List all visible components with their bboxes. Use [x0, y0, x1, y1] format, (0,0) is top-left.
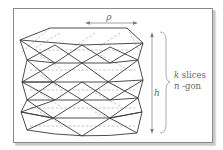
k-slices-label: k slices [174, 70, 206, 80]
h-dimension-arrow [150, 32, 153, 134]
folded-cylinder-diagram: ρ h k slices n -gon [0, 0, 223, 150]
h-label: h [154, 88, 160, 98]
visible-edges [20, 28, 143, 136]
curly-brace [160, 32, 170, 133]
rho-label: ρ [105, 12, 112, 22]
n-gon-label: n -gon [174, 81, 202, 91]
hidden-edges [22, 28, 140, 126]
